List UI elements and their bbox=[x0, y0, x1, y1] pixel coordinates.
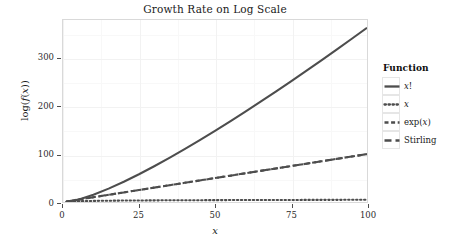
plot-area bbox=[63, 20, 367, 202]
y-axis-tick-labels: 0100200300 bbox=[30, 0, 54, 245]
legend: Function x!xexp(x)Stirling bbox=[382, 63, 456, 149]
legend-item[interactable]: Stirling bbox=[382, 131, 456, 149]
y-axis-tick-label: 100 bbox=[38, 150, 54, 159]
plot-panel bbox=[62, 19, 368, 203]
x-axis-tick-mark bbox=[292, 204, 293, 208]
series-lines bbox=[63, 20, 367, 202]
x-axis-tick-mark bbox=[368, 204, 369, 208]
x-axis-tick-label: 100 bbox=[348, 210, 388, 220]
x-axis-tick-mark bbox=[139, 204, 140, 208]
y-axis-tick-label: 0 bbox=[49, 199, 54, 208]
legend-item[interactable]: x! bbox=[382, 77, 456, 95]
legend-key-icon bbox=[382, 131, 400, 149]
x-axis-tick-label: 50 bbox=[195, 210, 235, 220]
legend-item-label: x bbox=[404, 99, 409, 109]
chart-title: Growth Rate on Log Scale bbox=[62, 3, 368, 15]
legend-item-label: exp(x) bbox=[404, 117, 431, 127]
legend-item[interactable]: exp(x) bbox=[382, 113, 456, 131]
legend-item[interactable]: x bbox=[382, 95, 456, 113]
y-axis-tick-label: 200 bbox=[38, 102, 54, 111]
series-line bbox=[66, 200, 367, 202]
y-axis-tick-mark bbox=[57, 203, 61, 204]
y-axis-tick-mark bbox=[57, 58, 61, 59]
legend-title: Function bbox=[383, 63, 456, 73]
y-axis-title: log(f(x)) bbox=[19, 41, 30, 161]
legend-key-icon bbox=[382, 95, 400, 113]
legend-item-label: x! bbox=[404, 81, 412, 91]
legend-key-icon bbox=[382, 113, 400, 131]
chart-container: Growth Rate on Log Scale 0100200300 log(… bbox=[0, 0, 459, 245]
x-axis-title: x bbox=[62, 225, 368, 236]
x-axis-tick-mark bbox=[62, 204, 63, 208]
x-axis-tick-mark bbox=[215, 204, 216, 208]
x-axis-tick-label: 75 bbox=[272, 210, 312, 220]
x-axis-tick-label: 0 bbox=[42, 210, 82, 220]
legend-key-icon bbox=[382, 77, 400, 95]
series-line bbox=[66, 28, 367, 202]
y-axis-title-text: log(f(x)) bbox=[19, 80, 30, 121]
y-axis-tick-mark bbox=[57, 155, 61, 156]
y-axis-tick-mark bbox=[57, 106, 61, 107]
legend-items: x!xexp(x)Stirling bbox=[382, 77, 456, 149]
y-axis-tick-label: 300 bbox=[38, 53, 54, 62]
x-axis-tick-label: 25 bbox=[119, 210, 159, 220]
legend-item-label: Stirling bbox=[404, 135, 436, 145]
